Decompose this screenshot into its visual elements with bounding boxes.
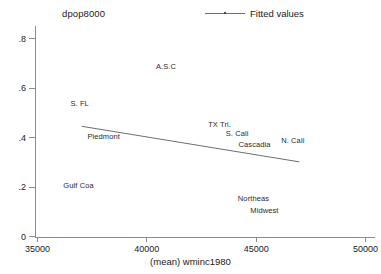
data-point-label: N. Cali <box>281 136 304 145</box>
x-axis-tick-label: 50000 <box>353 244 378 254</box>
y-axis-title: dpop8000 <box>62 8 105 19</box>
x-axis-tick: 40000 <box>146 237 147 242</box>
x-axis-tick: 50000 <box>365 237 366 242</box>
x-axis-tick-label: 35000 <box>25 244 50 254</box>
data-point-label: TX Tri. <box>208 120 231 129</box>
x-axis-line <box>35 237 375 238</box>
y-axis-tick-label: .4 <box>18 133 26 143</box>
data-point-label: A.S.C <box>156 61 176 70</box>
plot-area: A.S.CS. FLTX Tri.S. CaliN. CaliCascadiaP… <box>35 26 375 237</box>
data-point-label: Midwest <box>250 206 278 215</box>
legend-entry-label: Fitted values <box>250 8 304 19</box>
fitted-line-svg <box>35 26 375 237</box>
y-axis-tick-label: .2 <box>18 182 26 192</box>
x-axis-tick-label: 45000 <box>244 244 269 254</box>
x-axis-tick: 35000 <box>37 237 38 242</box>
x-axis-tick-label: 40000 <box>134 244 159 254</box>
y-axis-tick-label: 0 <box>21 232 26 242</box>
data-point-label: Gulf Coa <box>63 180 93 189</box>
data-point-label: S. Cali <box>226 128 249 137</box>
data-point-label: Piedmont <box>87 131 120 140</box>
chart-figure: dpop8000 Fitted values 0.2.4.6.8 3500040… <box>0 0 381 274</box>
legend: Fitted values <box>205 8 304 19</box>
y-axis-tick-label: .8 <box>18 34 26 44</box>
data-point-label: Northeas <box>238 193 269 202</box>
x-axis-tick: 45000 <box>256 237 257 242</box>
y-axis-tick-label: .6 <box>18 83 26 93</box>
data-point-label: S. FL <box>70 99 88 108</box>
legend-line-marker-icon <box>205 10 245 17</box>
data-point-label: Cascadia <box>239 139 271 148</box>
x-axis-title: (mean) wminc1980 <box>0 256 381 267</box>
